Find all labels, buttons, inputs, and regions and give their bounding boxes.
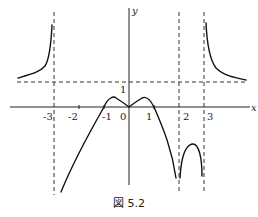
- tick-label: 2: [183, 111, 189, 122]
- x-axis-label: x: [251, 102, 257, 113]
- tick-label: 0: [120, 111, 126, 122]
- curve-branch-left: [18, 25, 52, 78]
- y-tick-label-1: 1: [120, 84, 126, 95]
- tick-label: -1: [102, 111, 112, 122]
- tick-label: -3: [43, 111, 53, 122]
- tick-label: 1: [146, 111, 152, 122]
- curve-branch-middle: [61, 97, 176, 192]
- tick-label: -2: [68, 111, 78, 122]
- function-graph: x y -3 -2 -1 0 1 2 3 1 図 5.2: [0, 0, 258, 217]
- curve-branch-right: [206, 23, 246, 80]
- tick-label: 3: [207, 111, 213, 122]
- y-axis-label: y: [131, 5, 138, 16]
- graph-svg: x y -3 -2 -1 0 1 2 3 1: [0, 0, 258, 217]
- figure-caption: 図 5.2: [0, 194, 258, 210]
- curve-branch-between-2-3: [180, 144, 202, 178]
